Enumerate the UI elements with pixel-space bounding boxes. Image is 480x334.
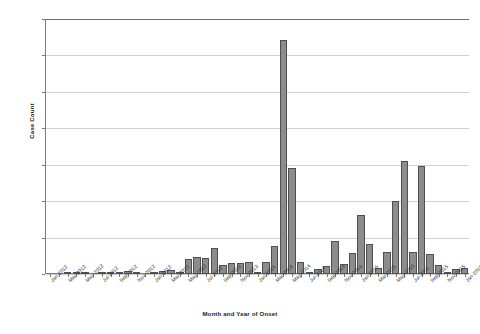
y-tick-mark xyxy=(42,238,45,239)
x-tick-label: Sep-2014 xyxy=(326,279,330,283)
bar xyxy=(418,166,425,274)
x-tick-label: May-2014 xyxy=(291,279,295,283)
bar xyxy=(280,40,287,274)
x-tick-label: Jan-2014 xyxy=(257,279,261,283)
x-tick-label: Jul-2014 xyxy=(308,279,312,283)
x-tick-label: Jan-2016 xyxy=(464,279,468,283)
y-tick-mark xyxy=(42,274,45,275)
x-tick-label: Mar-2012 xyxy=(67,279,71,283)
x-tick-label: Jul-2012 xyxy=(101,279,105,283)
x-tick-label: May-2015 xyxy=(395,279,399,283)
x-tick-label: Nov-2015 xyxy=(446,279,450,283)
y-tick-mark xyxy=(42,55,45,56)
y-tick-mark xyxy=(42,19,45,20)
x-tick-label: Sep-2013 xyxy=(222,279,226,283)
x-tick-label: May-2012 xyxy=(84,279,88,283)
bar xyxy=(401,161,408,274)
x-tick-label: Sep-2012 xyxy=(118,279,122,283)
x-tick-label: Nov-2014 xyxy=(343,279,347,283)
bar-series xyxy=(46,19,469,274)
y-axis-title: Case Count xyxy=(29,81,35,161)
x-tick-label: Jan-2012 xyxy=(49,279,53,283)
x-tick-label: Jul-2013 xyxy=(205,279,209,283)
y-tick-mark xyxy=(42,128,45,129)
epi-curve-chart: 050100150200250300350 Case Count Jan-201… xyxy=(0,0,480,334)
y-tick-mark xyxy=(42,201,45,202)
bar xyxy=(288,168,295,274)
x-tick-label: Jan-2013 xyxy=(153,279,157,283)
y-tick-mark xyxy=(42,165,45,166)
x-axis-title: Month and Year of Onset xyxy=(0,311,480,317)
x-axis-tick-labels: Jan-2012Mar-2012May-2012Jul-2012Sep-2012… xyxy=(0,276,480,316)
x-tick-label: Mar-2015 xyxy=(377,279,381,283)
y-tick-mark xyxy=(42,92,45,93)
x-tick-label: Mar-2013 xyxy=(170,279,174,283)
x-tick-label: Nov-2012 xyxy=(136,279,140,283)
x-tick-label: Mar-2014 xyxy=(274,279,278,283)
x-tick-label: Jul-2015 xyxy=(412,279,416,283)
x-tick-label: Sep-2015 xyxy=(429,279,433,283)
x-tick-label: May-2013 xyxy=(187,279,191,283)
x-tick-label: Jan-2015 xyxy=(360,279,364,283)
x-tick-label: Nov-2013 xyxy=(239,279,243,283)
